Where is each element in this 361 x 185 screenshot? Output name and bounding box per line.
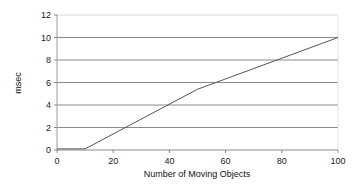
series-line <box>57 38 338 149</box>
x-axis-ticks: 020406080100 <box>54 150 345 166</box>
y-tick-label: 8 <box>46 55 51 65</box>
gridlines <box>57 15 338 128</box>
y-tick-label: 4 <box>46 100 51 110</box>
x-tick-label: 0 <box>54 156 59 166</box>
line-chart: 024681012 020406080100 Number of Moving … <box>0 0 361 185</box>
x-tick-label: 40 <box>164 156 174 166</box>
y-tick-label: 10 <box>41 33 51 43</box>
data-series <box>57 38 338 149</box>
x-axis-label: Number of Moving Objects <box>144 169 251 179</box>
y-axis-ticks: 024681012 <box>41 10 57 155</box>
x-tick-label: 20 <box>108 156 118 166</box>
y-tick-label: 12 <box>41 10 51 20</box>
x-tick-label: 80 <box>277 156 287 166</box>
y-tick-label: 0 <box>46 145 51 155</box>
y-tick-label: 6 <box>46 78 51 88</box>
y-tick-label: 2 <box>46 123 51 133</box>
x-tick-label: 60 <box>221 156 231 166</box>
y-axis-label: msec <box>13 72 23 94</box>
x-tick-label: 100 <box>330 156 345 166</box>
